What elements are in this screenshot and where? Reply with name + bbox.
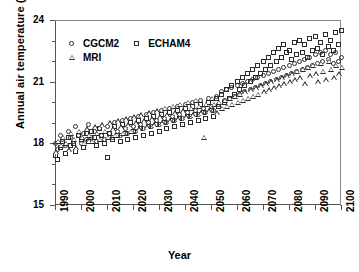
y-tick-label: 24	[0, 14, 44, 25]
y-tick-minor	[52, 123, 55, 124]
x-axis-title: Year	[0, 249, 359, 261]
x-tick	[107, 205, 108, 210]
x-tick	[237, 205, 238, 210]
x-tick	[185, 205, 186, 210]
y-tick-minor	[52, 102, 55, 103]
x-tick-label: 2040	[189, 190, 200, 212]
y-tick-label: 15	[0, 199, 44, 210]
y-tick-label: 21	[0, 76, 44, 87]
x-tick-label: 2000	[85, 190, 96, 212]
x-tick-label: 2060	[241, 190, 252, 212]
triangle-marker-icon	[68, 52, 79, 63]
x-tick	[133, 205, 134, 210]
x-tick-label: 2010	[111, 190, 122, 212]
chart-legend: CGCM2 ECHAM4 MRI	[68, 36, 204, 64]
circle-marker-icon	[68, 38, 79, 49]
legend-item-echam4: ECHAM4	[133, 38, 190, 49]
x-tick	[263, 205, 264, 210]
x-tick-label: 2030	[163, 190, 174, 212]
y-tick-minor	[52, 41, 55, 42]
legend-label-echam4: ECHAM4	[148, 38, 190, 49]
x-tick-label: 2070	[267, 190, 278, 212]
y-tick-minor	[52, 184, 55, 185]
y-tick-minor	[52, 61, 55, 62]
x-tick	[315, 205, 316, 210]
y-tick	[50, 82, 55, 83]
x-tick-label: 2090	[319, 190, 330, 212]
x-tick	[55, 205, 56, 210]
x-tick-label: 2100	[345, 190, 356, 212]
x-tick	[159, 205, 160, 210]
x-tick	[341, 205, 342, 210]
legend-row-1: CGCM2 ECHAM4	[68, 36, 204, 50]
legend-item-mri: MRI	[68, 52, 101, 63]
y-tick-minor	[52, 164, 55, 165]
square-marker-icon	[133, 38, 144, 49]
legend-item-cgcm2: CGCM2	[68, 38, 119, 49]
chart-figure: Annual air temperature (°C) 15182124 199…	[0, 0, 359, 272]
plot-top-border	[55, 20, 341, 21]
legend-row-2: MRI	[68, 50, 204, 64]
y-tick-label: 18	[0, 137, 44, 148]
legend-label-cgcm2: CGCM2	[83, 38, 119, 49]
legend-label-mri: MRI	[83, 52, 101, 63]
plot-right-border	[340, 20, 341, 206]
x-tick	[81, 205, 82, 210]
x-tick-label: 2050	[215, 190, 226, 212]
x-tick	[211, 205, 212, 210]
y-tick	[50, 20, 55, 21]
x-tick-label: 2080	[293, 190, 304, 212]
x-tick	[289, 205, 290, 210]
y-tick	[50, 143, 55, 144]
x-tick-label: 1990	[59, 190, 70, 212]
x-tick-label: 2020	[137, 190, 148, 212]
